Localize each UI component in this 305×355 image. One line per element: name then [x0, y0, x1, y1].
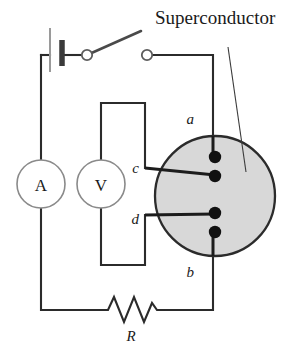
superconductor-four-probe-circuit-figure: A V Superconductor a b c d R	[0, 0, 305, 355]
switch-terminal-right[interactable]	[142, 50, 152, 60]
node-label-a: a	[187, 111, 195, 127]
lead-contact-d	[145, 214, 215, 215]
node-label-c: c	[132, 160, 139, 176]
voltmeter-label: V	[95, 176, 108, 195]
ammeter-label: A	[35, 176, 48, 195]
node-label-b: b	[187, 264, 195, 280]
contact-dot-a	[209, 151, 221, 163]
node-label-d: d	[132, 211, 140, 227]
figure-title: Superconductor	[155, 7, 276, 28]
resistor-label: R	[125, 328, 135, 344]
contact-dot-c	[209, 170, 221, 182]
switch-terminal-left[interactable]	[82, 50, 92, 60]
resistor-symbol	[101, 297, 163, 322]
contact-dot-d	[209, 207, 221, 219]
wire-voltmeter-top-to-node-c	[101, 103, 145, 168]
wire-ammeter-to-resistor	[41, 208, 101, 310]
switch-blade[interactable]	[87, 31, 141, 55]
wire-switch-to-node-a	[152, 55, 213, 136]
contact-dot-b	[209, 226, 221, 238]
circuit-diagram: A V Superconductor a b c d R	[0, 0, 305, 355]
